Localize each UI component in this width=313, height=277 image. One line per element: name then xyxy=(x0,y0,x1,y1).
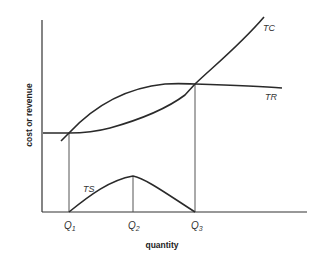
x-axis-title: quantity xyxy=(145,240,178,250)
ts-curve xyxy=(69,176,195,212)
ts-label: TS xyxy=(83,184,95,194)
tr-label: TR xyxy=(265,92,277,102)
tick-q3: Q3 xyxy=(191,220,203,232)
tick-q2: Q2 xyxy=(128,220,140,232)
tick-q1: Q1 xyxy=(64,220,76,232)
tc-label: TC xyxy=(263,23,275,33)
y-axis-title: cost or revenue xyxy=(24,83,34,147)
chart-canvas: TC TR TS Q1 Q2 Q3 quantity cost or reven… xyxy=(0,0,313,277)
tc-curve xyxy=(61,17,264,141)
